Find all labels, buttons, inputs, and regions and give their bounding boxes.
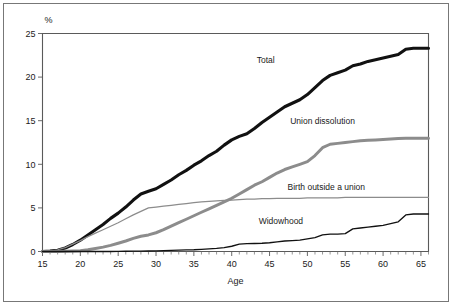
- x-tick-label: 45: [265, 259, 275, 269]
- plot-frame: [43, 34, 429, 252]
- y-tick-label: 15: [25, 116, 35, 126]
- line-chart: 15202530354045505560650510152025%AgeTota…: [0, 0, 453, 306]
- x-tick-label: 40: [227, 259, 237, 269]
- x-tick-label: 30: [151, 259, 161, 269]
- x-tick-label: 25: [113, 259, 123, 269]
- figure-container: 15202530354045505560650510152025%AgeTota…: [0, 0, 453, 306]
- x-tick-label: 60: [378, 259, 388, 269]
- x-tick-label: 20: [75, 259, 85, 269]
- chart-plot-area: 15202530354045505560650510152025%AgeTota…: [0, 0, 453, 306]
- y-tick-label: 0: [30, 247, 35, 257]
- y-axis-unit-label: %: [44, 15, 52, 25]
- x-tick-label: 55: [340, 259, 350, 269]
- x-tick-label: 65: [416, 259, 426, 269]
- series-line-total: [43, 48, 429, 251]
- y-tick-label: 10: [25, 160, 35, 170]
- y-tick-label: 20: [25, 72, 35, 82]
- series-label-total: Total: [257, 55, 275, 65]
- x-tick-label: 50: [302, 259, 312, 269]
- series-label-union-dissolution: Union dissolution: [290, 116, 355, 126]
- series-line-union-dissolution: [43, 138, 429, 251]
- x-axis-title: Age: [227, 276, 243, 286]
- series-line-widowhood: [43, 214, 429, 252]
- y-tick-label: 25: [25, 29, 35, 39]
- series-label-birth-outside-a-union: Birth outside a union: [288, 182, 366, 192]
- series-label-widowhood: Widowhood: [259, 216, 304, 226]
- x-tick-label: 35: [189, 259, 199, 269]
- x-tick-label: 15: [37, 259, 47, 269]
- y-tick-label: 5: [30, 203, 35, 213]
